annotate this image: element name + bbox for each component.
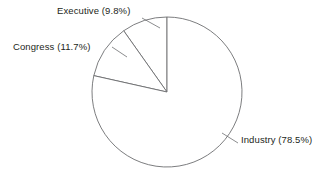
- pie-chart-canvas: [0, 0, 333, 185]
- pie-chart-figure: Executive (9.8%) Congress (11.7%) Indust…: [0, 0, 333, 185]
- pie-slices: [92, 17, 242, 167]
- pie-label-executive: Executive (9.8%): [57, 5, 130, 17]
- pie-label-industry: Industry (78.5%): [241, 134, 312, 146]
- pie-label-congress: Congress (11.7%): [13, 41, 90, 53]
